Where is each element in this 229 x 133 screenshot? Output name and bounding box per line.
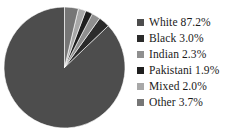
chart-legend: White 87.2%Black 3.0%Indian 2.3%Pakistan… bbox=[137, 14, 229, 110]
legend-swatch-icon bbox=[137, 99, 144, 106]
legend-item-label: Black 3.0% bbox=[149, 32, 204, 45]
legend-item: Indian 2.3% bbox=[137, 46, 229, 62]
legend-item-label: White 87.2% bbox=[149, 16, 211, 29]
legend-item: Black 3.0% bbox=[137, 30, 229, 46]
legend-swatch-icon bbox=[137, 51, 144, 58]
legend-item-label: Indian 2.3% bbox=[149, 48, 206, 61]
pie-svg bbox=[4, 6, 125, 129]
legend-item: Mixed 2.0% bbox=[137, 78, 229, 94]
legend-swatch-icon bbox=[137, 19, 144, 26]
legend-item-label: Other 3.7% bbox=[149, 96, 203, 109]
legend-item: Other 3.7% bbox=[137, 94, 229, 110]
legend-swatch-icon bbox=[137, 83, 144, 90]
pie-chart-figure: White 87.2%Black 3.0%Indian 2.3%Pakistan… bbox=[0, 0, 229, 133]
legend-swatch-icon bbox=[137, 35, 144, 42]
legend-item-label: Pakistani 1.9% bbox=[149, 64, 219, 77]
pie-chart-graphic bbox=[4, 6, 125, 129]
legend-item-label: Mixed 2.0% bbox=[149, 80, 207, 93]
pie-slices-group bbox=[4, 7, 125, 128]
legend-item: Pakistani 1.9% bbox=[137, 62, 229, 78]
legend-swatch-icon bbox=[137, 67, 144, 74]
legend-item: White 87.2% bbox=[137, 14, 229, 30]
